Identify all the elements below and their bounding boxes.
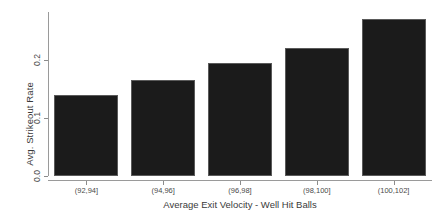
y-tick-label-text: 0.0 — [32, 170, 42, 182]
bar — [285, 48, 349, 176]
y-tick-label: 0.2 — [30, 54, 44, 66]
x-tick-mark — [163, 181, 164, 185]
x-tick-mark — [240, 181, 241, 185]
x-tick-label: (96,98] — [228, 186, 251, 195]
y-tick-label: 0.1 — [30, 112, 44, 124]
x-tick-mark — [317, 181, 318, 185]
x-tick-label: (100,102] — [378, 186, 410, 195]
x-tick-label: (98,100] — [303, 186, 331, 195]
plot-area — [48, 12, 432, 176]
x-axis-title: Average Exit Velocity - Well Hit Balls — [48, 199, 432, 210]
bar — [208, 63, 272, 176]
y-axis-title: Avg. Strikeout Rate — [22, 0, 36, 216]
y-tick-label-text: 0.1 — [32, 112, 42, 124]
x-tick-mark — [86, 181, 87, 185]
y-tick-mark — [44, 176, 48, 177]
y-tick-label-text: 0.2 — [32, 54, 42, 66]
bar — [131, 80, 195, 176]
y-tick-label: 0.0 — [30, 170, 44, 182]
x-tick-label: (92,94] — [75, 186, 98, 195]
bar-chart: Avg. Strikeout Rate 0.00.10.2 (92,94](94… — [0, 0, 444, 216]
bar — [54, 95, 118, 176]
x-tick-label: (94,96] — [152, 186, 175, 195]
x-tick-mark — [394, 181, 395, 185]
bar — [362, 19, 426, 176]
